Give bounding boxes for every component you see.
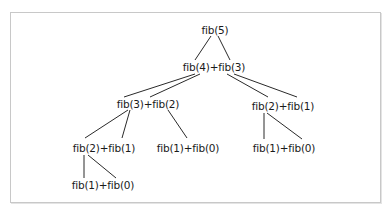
node-fib2-plus-fib1-right: fib(2)+fib(1) xyxy=(252,100,315,112)
edge xyxy=(124,74,195,97)
edge xyxy=(88,155,116,178)
edge xyxy=(218,36,230,60)
node-fib3-plus-fib2: fib(3)+fib(2) xyxy=(117,98,180,110)
node-fib1-plus-fib0-right: fib(1)+fib(0) xyxy=(253,142,316,154)
node-fib5: fib(5) xyxy=(202,24,229,36)
node-fib1-plus-fib0-mid: fib(1)+fib(0) xyxy=(157,142,220,154)
edge xyxy=(267,113,302,139)
edge xyxy=(168,110,187,138)
node-fib1-plus-fib0-bottom: fib(1)+fib(0) xyxy=(72,179,135,191)
tree-edges xyxy=(0,0,387,210)
edge xyxy=(234,74,297,97)
edge xyxy=(227,74,268,97)
edge xyxy=(85,110,128,138)
node-fib2-plus-fib1-left: fib(2)+fib(1) xyxy=(73,142,136,154)
edge xyxy=(150,74,200,97)
edge xyxy=(122,110,130,138)
node-fib4-plus-fib3: fib(4)+fib(3) xyxy=(183,61,246,73)
edge xyxy=(195,36,211,60)
